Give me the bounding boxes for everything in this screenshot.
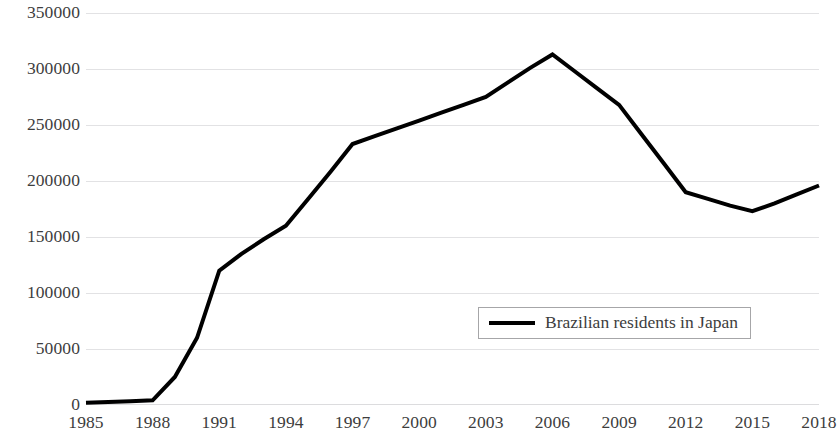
x-axis-tick-labels: 1985198819911994199720002003200620092012…: [86, 414, 819, 441]
x-tick-label: 2000: [401, 414, 436, 432]
y-tick-label: 350000: [0, 4, 80, 22]
legend-label-brazilian-residents-in-japan: Brazilian residents in Japan: [545, 314, 738, 332]
x-tick-label: 1991: [202, 414, 237, 432]
y-axis-tick-labels: 0500001000001500002000002500003000003500…: [0, 0, 80, 441]
x-tick-label: 1988: [135, 414, 170, 432]
x-tick-label: 1994: [268, 414, 303, 432]
x-tick-label: 2012: [668, 414, 703, 432]
y-tick-label: 50000: [0, 340, 80, 358]
x-tick-label: 2003: [468, 414, 503, 432]
y-tick-label: 150000: [0, 228, 80, 246]
legend-line-swatch-icon: [489, 321, 535, 325]
series-line-brazilian-residents-in-japan: [86, 54, 819, 402]
x-tick-label: 1997: [335, 414, 370, 432]
x-tick-label: 1985: [68, 414, 103, 432]
y-tick-label: 100000: [0, 284, 80, 302]
x-tick-label: 2009: [601, 414, 636, 432]
plot-area: [86, 13, 819, 405]
y-tick-label: 300000: [0, 60, 80, 78]
y-tick-label: 0: [0, 396, 80, 414]
series-layer: [86, 13, 819, 405]
y-tick-label: 250000: [0, 116, 80, 134]
x-tick-label: 2006: [535, 414, 570, 432]
x-tick-label: 2018: [801, 414, 836, 432]
y-tick-label: 200000: [0, 172, 80, 190]
x-tick-label: 2015: [735, 414, 770, 432]
legend: Brazilian residents in Japan: [478, 307, 751, 339]
